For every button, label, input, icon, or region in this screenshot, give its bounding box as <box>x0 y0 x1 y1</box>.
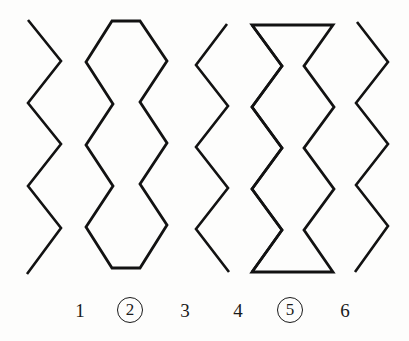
figure-label-3: 3 <box>165 292 205 328</box>
zigzag-figure-6 <box>355 22 388 272</box>
figure-label-6: 6 <box>325 292 365 328</box>
figure-label-4: 4 <box>218 292 258 328</box>
figure-label-row: 123456 <box>0 292 409 332</box>
zigzag-figure-3 <box>196 24 229 272</box>
zigzag-figure-2 <box>86 21 167 268</box>
zigzag-figure-5 <box>252 25 334 272</box>
zigzag-figure-canvas <box>0 0 409 341</box>
figure-label-number: 2 <box>117 297 143 323</box>
zigzag-figure-page: 123456 <box>0 0 409 341</box>
figure-label-number: 4 <box>233 301 243 320</box>
figure-label-number: 5 <box>277 297 303 323</box>
figure-label-5: 5 <box>270 292 310 328</box>
figure-label-number: 3 <box>180 301 190 320</box>
figure-label-number: 1 <box>75 301 85 320</box>
zigzag-paths-group <box>27 20 388 274</box>
figure-label-2: 2 <box>110 292 150 328</box>
figure-label-number: 6 <box>340 301 350 320</box>
zigzag-figure-1 <box>27 20 61 274</box>
figure-label-1: 1 <box>60 292 100 328</box>
